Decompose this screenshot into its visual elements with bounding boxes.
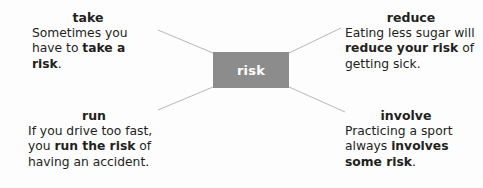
connector-line-involve [289, 87, 345, 112]
branch-heading-reduce: reduce [345, 10, 477, 25]
branch-involve: involve Practicing a sport always involv… [345, 108, 467, 170]
branch-run: run If you drive too fast, you run the r… [28, 108, 160, 170]
center-node-label: risk [237, 63, 265, 78]
branch-text-bold-reduce: reduce your risk [345, 41, 458, 55]
branch-text-bold-run: run the risk [55, 139, 136, 153]
branch-text-after-involve: . [412, 155, 416, 169]
branch-sentence-take: Sometimes you have to take a risk. [32, 26, 144, 72]
branch-sentence-involve: Practicing a sport always involves some … [345, 124, 467, 170]
branch-heading-take: take [32, 10, 144, 25]
connector-line-run [158, 87, 213, 110]
branch-reduce: reduce Eating less sugar will reduce you… [345, 10, 477, 72]
branch-sentence-run: If you drive too fast, you run the risk … [28, 124, 160, 170]
center-node-risk: risk [213, 52, 289, 88]
branch-take: take Sometimes you have to take a risk. [32, 10, 144, 72]
branch-heading-involve: involve [345, 108, 467, 123]
risk-collocation-diagram: risk take Sometimes you have to take a r… [0, 0, 483, 188]
branch-sentence-reduce: Eating less sugar will reduce your risk … [345, 26, 477, 72]
connector-line-take [158, 30, 213, 53]
branch-text-after-take: . [58, 57, 62, 71]
branch-text-before-reduce: Eating less sugar will [345, 26, 475, 40]
connector-line-reduce [289, 28, 341, 53]
branch-heading-run: run [28, 108, 160, 123]
